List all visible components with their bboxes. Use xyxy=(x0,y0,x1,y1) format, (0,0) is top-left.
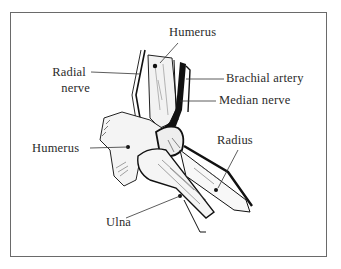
label-radius: Radius xyxy=(217,134,253,147)
ulna-bone xyxy=(138,149,214,232)
label-humerus-top: Humerus xyxy=(169,26,216,39)
humerus-marker-dot xyxy=(153,64,157,68)
leader-radial-nerve xyxy=(91,72,140,74)
label-median-nerve: Median nerve xyxy=(219,94,290,107)
label-humerus-left: Humerus xyxy=(32,142,79,155)
label-radial-nerve-line1: Radial xyxy=(46,66,86,79)
radius-marker-dot xyxy=(214,188,218,192)
label-radial-nerve-line2: nerve xyxy=(46,82,90,95)
label-brachial-artery: Brachial artery xyxy=(226,72,304,85)
leader-ulna xyxy=(126,196,180,218)
elbow-anatomy-drawing xyxy=(0,0,341,269)
label-ulna: Ulna xyxy=(106,216,131,229)
